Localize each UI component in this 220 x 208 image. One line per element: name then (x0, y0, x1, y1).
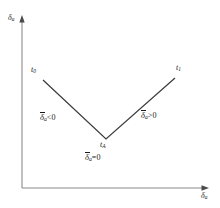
point-label-ta: tA (100, 141, 106, 150)
point-label-t0: t0 (31, 66, 36, 75)
x-axis-arrowhead (202, 185, 210, 190)
figure-canvas: δa δa t0 t1 tA δa<0 δa=0 δa>0 (0, 0, 220, 208)
annotation-delta-negative: δa<0 (40, 113, 55, 123)
v-curve-group (43, 78, 175, 139)
y-axis-arrowhead (19, 15, 24, 23)
annotation-delta-zero: δa=0 (85, 153, 100, 163)
diagram-svg (0, 0, 220, 208)
x-axis-label: δa (201, 192, 207, 201)
v-shaped-curve (43, 78, 175, 139)
axes-group (19, 15, 209, 191)
annotation-delta-positive: δa>0 (141, 111, 156, 121)
y-axis-label: δa (8, 14, 14, 23)
point-label-t1: t1 (176, 64, 181, 73)
